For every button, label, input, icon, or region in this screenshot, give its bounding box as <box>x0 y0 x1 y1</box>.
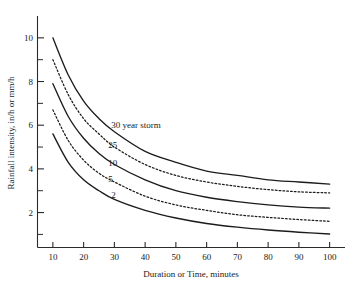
idf-curve-chart: 246810 102030405060708090100 30 year sto… <box>0 0 357 286</box>
curve-label-30-year-storm: 30 year storm <box>111 120 161 130</box>
x-tick-label: 80 <box>264 252 274 262</box>
x-tick-label: 70 <box>233 252 243 262</box>
y-tick-label: 2 <box>29 208 34 218</box>
curve-5 <box>53 110 330 221</box>
curve-label-2: 2 <box>111 190 116 200</box>
axes-group <box>38 16 346 248</box>
x-tick-label: 90 <box>294 252 304 262</box>
curve-label-10: 10 <box>108 158 118 168</box>
curve-label-5: 5 <box>108 174 113 184</box>
x-tick-label: 50 <box>171 252 181 262</box>
curve-25 <box>53 60 330 193</box>
x-axis-ticks <box>53 242 330 248</box>
y-axis-title: Rainfall intensity, in/h or mm/h <box>6 76 16 190</box>
x-tick-label: 10 <box>48 252 58 262</box>
curves-group <box>53 38 330 234</box>
x-tick-label: 20 <box>79 252 89 262</box>
x-axis-title: Duration or Time, minutes <box>143 269 239 279</box>
y-axis-tick-labels: 246810 <box>24 33 34 218</box>
x-tick-label: 100 <box>323 252 337 262</box>
y-tick-label: 6 <box>29 120 34 130</box>
x-axis-tick-labels: 102030405060708090100 <box>48 252 337 262</box>
y-tick-label: 10 <box>24 33 34 43</box>
curve-10 <box>53 84 330 208</box>
x-tick-label: 60 <box>202 252 212 262</box>
x-tick-label: 30 <box>110 252 120 262</box>
y-tick-label: 8 <box>29 77 34 87</box>
curve-label-25: 25 <box>108 140 118 150</box>
y-axis-ticks <box>38 38 45 235</box>
y-tick-label: 4 <box>29 164 34 174</box>
x-tick-label: 40 <box>141 252 151 262</box>
curve-30-year-storm <box>53 38 330 184</box>
chart-figure: 246810 102030405060708090100 30 year sto… <box>0 0 357 286</box>
